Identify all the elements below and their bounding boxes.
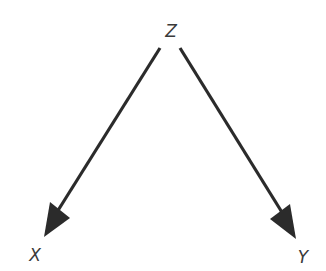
arrowhead-icon bbox=[270, 204, 296, 239]
causal-diagram bbox=[0, 0, 326, 271]
arrowhead-icon bbox=[44, 202, 70, 237]
node-x: X bbox=[29, 245, 41, 265]
node-y: Y bbox=[298, 247, 308, 267]
edge-z-to-y bbox=[180, 48, 296, 239]
edge-z-to-x bbox=[44, 48, 160, 237]
node-z: Z bbox=[165, 21, 177, 41]
